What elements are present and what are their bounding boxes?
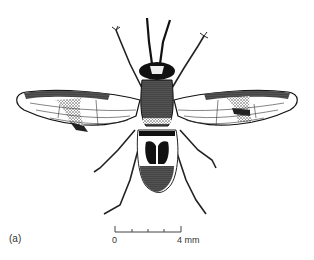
thorax [141,80,173,126]
insect-illustration [0,0,314,260]
scale-end-label: 4 mm [177,235,200,245]
figure: (a) 0 4 mm [0,0,314,260]
panel-label: (a) [9,233,21,244]
antennae [147,18,170,64]
abdomen [137,130,178,193]
right-wing [174,90,297,126]
head [139,62,175,80]
scale-start-label: 0 [112,235,117,245]
scale-bar [115,226,181,232]
left-wing [17,90,140,132]
